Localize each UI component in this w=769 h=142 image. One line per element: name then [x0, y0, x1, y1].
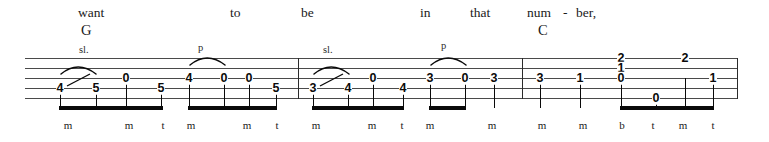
fret-number: 1 — [576, 72, 584, 85]
lyric-syllable: in — [420, 6, 431, 20]
barline — [522, 58, 523, 99]
lyric-syllable: num — [527, 6, 551, 20]
note-stem — [685, 78, 686, 108]
lyric-syllable: to — [230, 6, 241, 20]
slide-slur — [60, 62, 100, 78]
fret-number: 0 — [652, 92, 660, 105]
barline — [737, 58, 738, 99]
staff-line — [25, 98, 738, 99]
fret-number: 4 — [344, 82, 352, 95]
slide-line — [67, 74, 90, 86]
fingering-letter: m — [538, 120, 547, 131]
fingering-letter: t — [275, 120, 278, 131]
pulloff-slur — [430, 53, 470, 69]
fret-number: 3 — [309, 82, 317, 95]
fingering-letter: m — [64, 120, 73, 131]
fret-number: 5 — [92, 82, 100, 95]
fingering-letter: m — [312, 120, 321, 131]
fret-number: 0 — [220, 72, 228, 85]
technique-mark: p — [441, 41, 446, 52]
fret-number: 3 — [536, 72, 544, 85]
fret-number: 3 — [490, 72, 498, 85]
technique-mark: sl. — [323, 45, 333, 56]
slide-slur — [313, 62, 353, 78]
chord-symbol: C — [538, 23, 548, 38]
fingering-letter: m — [187, 120, 196, 131]
fingering-letter: b — [619, 120, 625, 131]
beam — [59, 106, 163, 110]
lyric-syllable: want — [78, 6, 104, 20]
fingering-letter: m — [488, 120, 497, 131]
barline — [298, 58, 299, 99]
lyric-syllable: that — [470, 6, 490, 20]
fret-number: 0 — [245, 72, 253, 85]
lyric-syllable: - — [563, 6, 568, 20]
fingering-letter: m — [679, 120, 688, 131]
staff-line — [25, 58, 738, 59]
fret-number: 4 — [399, 82, 407, 95]
fret-number: 5 — [157, 82, 165, 95]
fret-number: 0 — [369, 72, 377, 85]
fret-number: 3 — [426, 72, 434, 85]
fingering-letter: t — [400, 120, 403, 131]
fingering-letter: m — [243, 120, 252, 131]
tablature-page: wanttobeinthatnum-ber, GC sl.psl.p 45054… — [0, 0, 769, 142]
staff-line — [25, 88, 738, 89]
beam — [620, 106, 714, 110]
fingering-letter: t — [161, 120, 164, 131]
fret-number: 0 — [122, 72, 130, 85]
fret-number: 0 — [461, 72, 469, 85]
beam — [312, 106, 404, 110]
fret-number: 4 — [56, 82, 64, 95]
fret-number: 2 — [681, 52, 689, 65]
beam — [188, 106, 277, 110]
fret-number: 5 — [272, 82, 280, 95]
lyric-syllable: ber, — [576, 6, 596, 20]
technique-mark: sl. — [79, 45, 89, 56]
chord-symbol: G — [81, 23, 91, 38]
staff-line — [25, 68, 738, 69]
lyric-syllable: be — [301, 6, 314, 20]
pulloff-slur — [189, 53, 229, 69]
fret-number: 0 — [617, 72, 625, 85]
staff-line — [25, 78, 738, 79]
beam — [429, 106, 466, 110]
fingering-letter: t — [651, 120, 654, 131]
slide-line — [320, 74, 343, 86]
fret-number: 1 — [709, 72, 717, 85]
technique-mark: p — [198, 43, 203, 54]
fingering-letter: m — [368, 120, 377, 131]
fingering-letter: t — [711, 120, 714, 131]
fingering-letter: m — [125, 120, 134, 131]
fret-number: 4 — [185, 72, 193, 85]
fingering-letter: m — [579, 120, 588, 131]
fingering-letter: m — [426, 120, 435, 131]
